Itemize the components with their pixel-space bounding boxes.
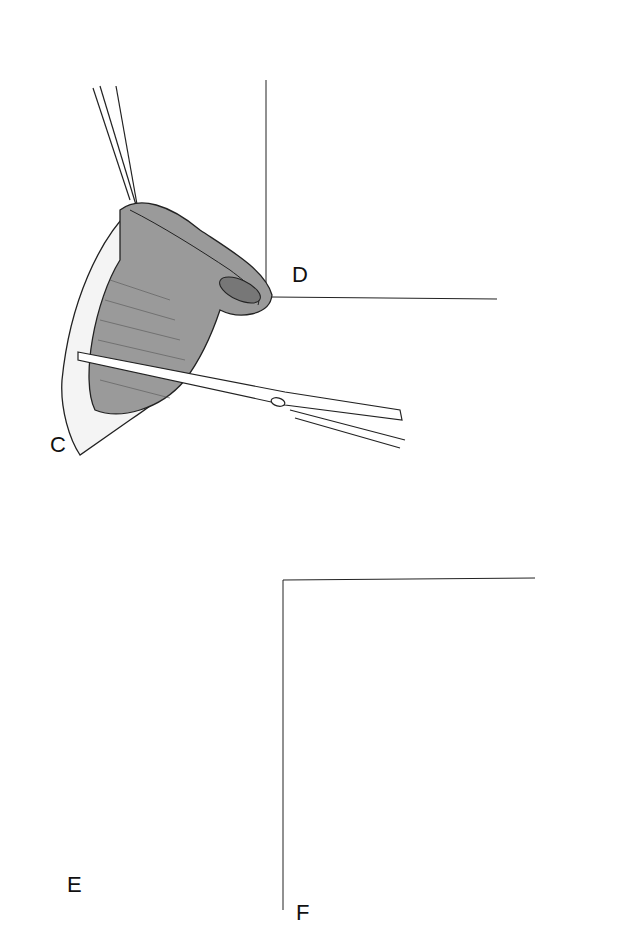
panel-label-f: F xyxy=(296,900,309,926)
panel-label-c: C xyxy=(50,432,66,458)
panel-c-illustration xyxy=(62,86,405,455)
figure-canvas xyxy=(0,0,621,940)
panel-dividers xyxy=(266,80,535,910)
panel-label-d: D xyxy=(292,262,308,288)
panel-label-e: E xyxy=(67,872,82,898)
